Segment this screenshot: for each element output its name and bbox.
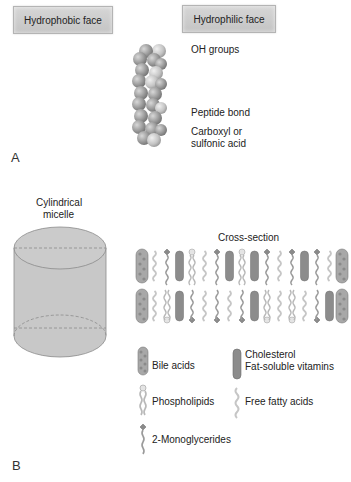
phospholipids-legend-icon [137,384,149,420]
legend-monoglycerides: 2-Monoglycerides [152,434,231,446]
cylindrical-micelle-illustration [12,224,108,360]
monoglycerides-legend-icon [137,423,149,459]
molecule-chol [326,291,334,321]
molecule-mg [314,249,320,285]
legend-cholesterol-line1: Cholesterol [245,349,296,361]
molecule-mg [214,290,220,323]
molecule-bile [136,289,148,323]
molecule-mg [214,249,220,285]
molecule-ffa [328,251,331,281]
molecule-pl [239,249,245,285]
molecule-ffa [153,251,156,281]
hydrophobic-face-box: Hydrophobic face [13,6,113,34]
cross-section-title: Cross-section [218,232,279,244]
molecule-ffa [203,291,206,321]
molecule-chol [226,251,234,281]
cylinder-title-line2: micelle [43,209,74,221]
legend-free-fatty-acids: Free fatty acids [245,396,313,408]
molecule-pl [164,290,170,323]
carboxyl-label-line2: sulfonic acid [191,138,246,150]
cross-section-bottom-row [136,287,346,327]
molecule-bile [136,249,148,283]
molecule-chol [176,251,184,281]
molecule-chol [251,251,259,281]
hydrophobic-face-label: Hydrophobic face [24,15,102,26]
cylinder-title-line1: Cylindrical [36,197,82,209]
molecule-mg [164,249,170,285]
bile-acid-molecule-illustration [128,42,172,148]
molecule-chol [301,251,309,281]
molecule-bile [336,249,348,283]
hydrophilic-face-label: Hydrophilic face [193,14,264,25]
molecule-ffa [278,291,281,321]
oh-groups-label: OH groups [191,44,239,56]
molecule-bile [336,289,348,323]
free-fatty-acids-legend-icon [232,387,242,419]
panel-b-letter: B [12,458,21,473]
molecule-ffa [303,291,306,321]
cross-section-top-row [136,247,346,287]
legend-bile-acids: Bile acids [152,360,195,372]
bile-acids-legend-icon [137,346,149,376]
molecule-chol [176,291,184,321]
molecule-mg [289,249,295,285]
legend-phospholipids: Phospholipids [152,396,214,408]
molecule-mg [239,290,245,323]
molecule-mg [264,249,270,285]
carboxyl-label-line1: Carboxyl or [191,126,242,138]
molecule-ffa [228,291,231,321]
hydrophilic-face-box: Hydrophilic face [182,5,276,33]
cholesterol-legend-icon [232,348,242,380]
legend-cholesterol-line2: Fat-soluble vitamins [245,361,334,373]
molecule-ffa [153,291,156,321]
molecule-ffa [203,251,206,281]
molecule-mg [314,290,320,323]
molecule-ffa [278,251,281,281]
molecule-pl [289,290,295,323]
molecule-chol [251,291,259,321]
molecule-mg [189,290,195,323]
molecule-pl [189,249,195,285]
peptide-bond-label: Peptide bond [191,107,250,119]
molecule-pl [264,290,270,323]
panel-a-letter: A [11,150,20,165]
